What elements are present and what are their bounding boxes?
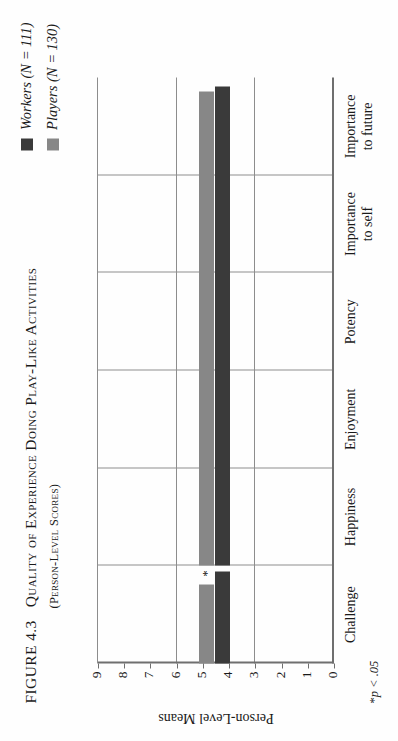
x-axis-category-label: Happiness <box>343 468 360 566</box>
y-axis-title: Person-Level Means <box>158 709 273 725</box>
y-axis-tick-label: 7 <box>141 671 157 693</box>
legend-item-workers[interactable]: Workers (N = 111) <box>18 22 35 150</box>
y-axis-tick-mark <box>124 663 125 668</box>
chart-plot-area: * <box>98 77 334 663</box>
legend-label-workers: Workers (N = 111) <box>18 22 35 129</box>
legend-swatch-workers <box>21 138 33 150</box>
y-axis-tick-label: 4 <box>220 671 236 693</box>
figure-footnote: *p < .05 <box>367 660 382 703</box>
y-axis-tick-mark <box>282 663 283 668</box>
y-axis-tick-label: 8 <box>115 671 131 693</box>
y-axis-tick-label: 9 <box>89 671 105 693</box>
bar-group: * <box>96 468 332 566</box>
y-axis-tick-label: 6 <box>168 671 184 693</box>
chart-legend: Workers (N = 111) Players (N = 130) <box>18 22 61 150</box>
legend-item-players[interactable]: Players (N = 130) <box>44 22 61 150</box>
bar-group <box>96 272 332 370</box>
bar-workers[interactable] <box>215 571 230 663</box>
figure-canvas: FIGURE 4.3Quality of Experience Doing Pl… <box>0 0 398 741</box>
x-axis-category-label: Importance to self <box>343 175 376 273</box>
bar-workers[interactable] <box>215 86 230 175</box>
significance-star: * <box>200 570 213 577</box>
y-axis-tick-mark <box>229 663 230 668</box>
bar-group <box>96 77 332 175</box>
footnote-star: * <box>367 697 381 703</box>
y-axis-tick-mark <box>150 663 151 668</box>
chart-bars-layer: * <box>98 77 334 663</box>
footnote-text: p < .05 <box>367 660 381 697</box>
y-axis-tick-mark <box>98 663 99 668</box>
y-axis-tick-mark <box>255 663 256 668</box>
y-axis-tick-mark <box>177 663 178 668</box>
y-axis-tick-label: 1 <box>299 671 315 693</box>
y-axis-tick-mark <box>308 663 309 668</box>
bar-players[interactable] <box>199 584 214 663</box>
legend-label-players: Players (N = 130) <box>44 23 61 129</box>
y-axis-tick-label: 2 <box>273 671 289 693</box>
bar-group <box>96 175 332 273</box>
x-axis-category-label: Enjoyment <box>343 370 360 468</box>
bar-group <box>96 565 332 663</box>
figure-number: FIGURE 4.3 <box>22 620 39 703</box>
x-axis-category-label: Potency <box>343 272 360 370</box>
bar-players[interactable] <box>199 91 214 175</box>
legend-swatch-players <box>47 138 59 150</box>
bar-group <box>96 370 332 468</box>
y-axis-tick-label: 5 <box>194 671 210 693</box>
x-axis-line <box>332 77 334 663</box>
y-axis-tick-mark <box>203 663 204 668</box>
x-axis-category-label: Importance to future <box>343 77 376 175</box>
page-title: Quality of Experience Doing Play-Like Ac… <box>22 267 39 606</box>
y-axis-tick-label: 3 <box>246 671 262 693</box>
y-axis-tick-label: 0 <box>325 671 341 693</box>
y-axis-tick-mark <box>334 663 335 668</box>
x-axis-category-label: Challenge <box>343 565 360 663</box>
